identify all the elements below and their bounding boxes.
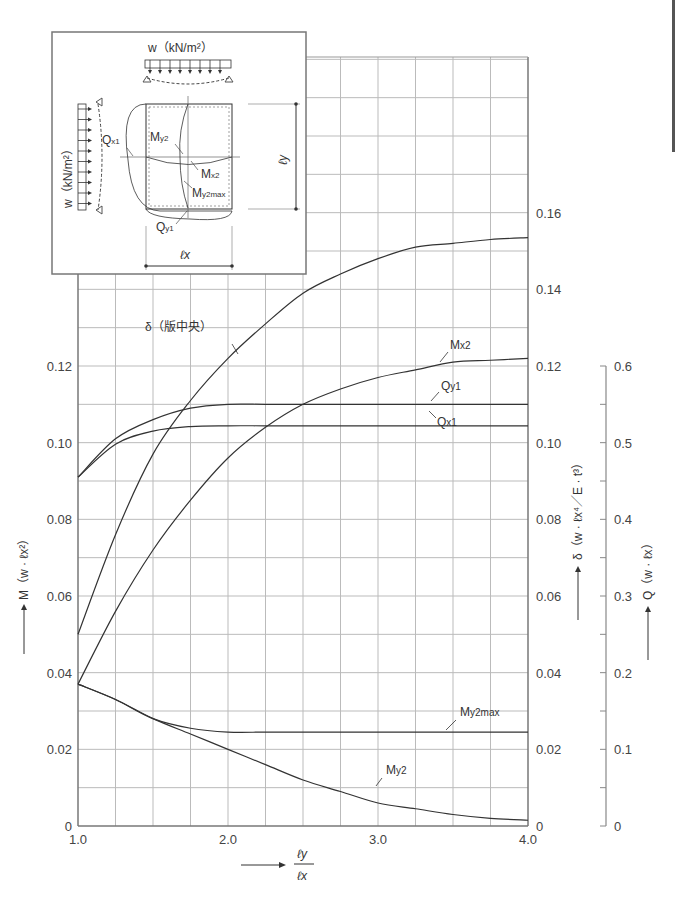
svg-text:0: 0	[614, 819, 621, 834]
svg-text:0.1: 0.1	[614, 742, 632, 757]
svg-text:0.04: 0.04	[536, 666, 561, 681]
svg-text:Q（w · ℓx）: Q（w · ℓx）	[641, 537, 655, 600]
svg-text:0.08: 0.08	[47, 512, 72, 527]
svg-text:0.4: 0.4	[614, 512, 632, 527]
svg-text:0: 0	[536, 819, 543, 834]
svg-text:δ（版中央）: δ（版中央）	[145, 319, 212, 334]
svg-text:Qx1: Qx1	[437, 415, 457, 429]
page-edge-bar	[672, 0, 675, 152]
svg-text:ℓy: ℓy	[297, 847, 308, 861]
tick-labels: 00.020.040.060.080.100.1200.020.040.060.…	[47, 206, 632, 847]
svg-text:0.10: 0.10	[536, 436, 561, 451]
svg-text:1.0: 1.0	[69, 832, 87, 847]
svg-text:0.06: 0.06	[47, 589, 72, 604]
svg-text:0.02: 0.02	[47, 742, 72, 757]
svg-text:M（w · ℓx²）: M（w · ℓx²）	[17, 533, 31, 600]
svg-text:0.16: 0.16	[536, 206, 561, 221]
svg-text:ℓx: ℓx	[297, 869, 308, 883]
svg-text:ℓx: ℓx	[180, 248, 191, 262]
svg-text:w（kN/m²）: w（kN/m²）	[147, 41, 213, 55]
svg-text:0.06: 0.06	[536, 589, 561, 604]
svg-text:Mx2: Mx2	[450, 338, 471, 352]
svg-text:My2max: My2max	[460, 705, 499, 719]
svg-text:0.5: 0.5	[614, 436, 632, 451]
svg-text:0.12: 0.12	[47, 359, 72, 374]
svg-text:w（kN/m²）: w（kN/m²）	[61, 143, 75, 209]
svg-text:2.0: 2.0	[219, 832, 237, 847]
inset-diagram: w（kN/m²）w（kN/m²）Qx1My2Mx2My2maxQy1ℓxℓy	[52, 32, 306, 274]
svg-text:0.04: 0.04	[47, 666, 72, 681]
svg-text:δ（w · ℓx⁴／E · t³）: δ（w · ℓx⁴／E · t³）	[571, 457, 585, 560]
svg-text:0.6: 0.6	[614, 359, 632, 374]
svg-text:0.2: 0.2	[614, 666, 632, 681]
svg-text:My2: My2	[386, 763, 407, 777]
svg-text:0.14: 0.14	[536, 282, 561, 297]
svg-text:0.3: 0.3	[614, 589, 632, 604]
svg-text:0.10: 0.10	[47, 436, 72, 451]
svg-text:3.0: 3.0	[369, 832, 387, 847]
svg-text:Qy1: Qy1	[441, 379, 461, 393]
svg-text:ℓy: ℓy	[276, 154, 290, 165]
svg-text:4.0: 4.0	[519, 832, 537, 847]
svg-text:0.08: 0.08	[536, 512, 561, 527]
curve-annotations: δ（版中央）Mx2Qy1Qx1My2maxMy2	[145, 319, 499, 786]
slab-coefficient-chart: 00.020.040.060.080.100.1200.020.040.060.…	[0, 0, 676, 912]
svg-text:0.02: 0.02	[536, 742, 561, 757]
svg-text:0.12: 0.12	[536, 359, 561, 374]
